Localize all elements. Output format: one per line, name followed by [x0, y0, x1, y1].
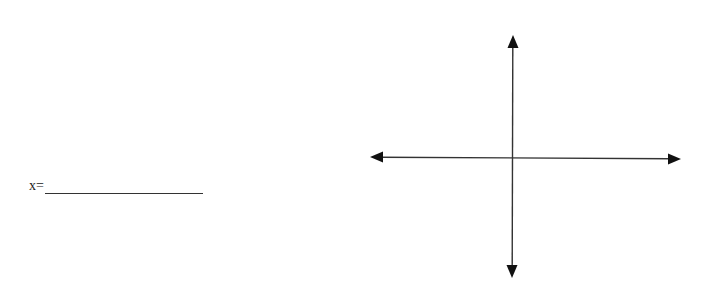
y-axis-down-arrow-icon — [507, 265, 518, 278]
x-axis-right-arrow-icon — [668, 154, 681, 165]
x-axis-line — [380, 157, 670, 159]
y-axis-line — [512, 45, 513, 268]
coordinate-axes — [0, 0, 714, 292]
y-axis-up-arrow-icon — [508, 35, 519, 48]
x-axis-left-arrow-icon — [370, 152, 383, 163]
